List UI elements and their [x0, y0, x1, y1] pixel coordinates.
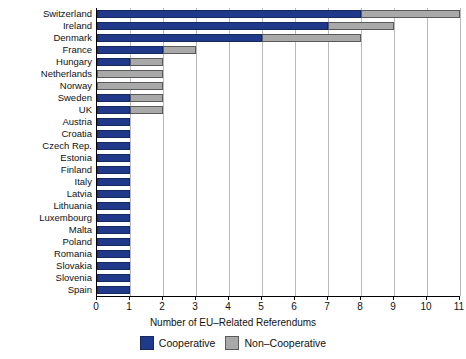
bar-segment-cooperative [97, 94, 130, 102]
x-axis-tick-label-4: 4 [216, 301, 240, 312]
legend-label-non-cooperative: Non–Cooperative [244, 337, 326, 349]
bar-segment-non-cooperative [262, 34, 361, 42]
y-axis-label-croatia: Croatia [61, 129, 92, 139]
bar-row [97, 142, 460, 150]
bar-row [97, 262, 460, 270]
y-axis-label-finland: Finland [61, 165, 92, 175]
x-axis-title: Number of EU–Related Referendums [0, 317, 466, 328]
y-axis-label-latvia: Latvia [67, 189, 92, 199]
bar-segment-cooperative [97, 58, 130, 66]
x-axis-tick-0 [96, 296, 97, 300]
x-axis-tick-10 [426, 296, 427, 300]
legend-swatch-non-cooperative-icon [225, 336, 239, 350]
legend-item-cooperative: Cooperative [140, 336, 216, 350]
y-axis-label-ireland: Ireland [63, 21, 92, 31]
gridline-11 [460, 8, 461, 296]
x-axis-tick-11 [459, 296, 460, 300]
x-axis-tick-label-1: 1 [117, 301, 141, 312]
bar-segment-cooperative [97, 226, 130, 234]
bar-segment-cooperative [97, 106, 130, 114]
y-axis-label-slovakia: Slovakia [56, 261, 92, 271]
bar-segment-cooperative [97, 262, 130, 270]
bar-segment-cooperative [97, 238, 130, 246]
bar-row [97, 226, 460, 234]
plot-area [96, 8, 459, 296]
bar-segment-cooperative [97, 154, 130, 162]
bar-row [97, 238, 460, 246]
bar-row [97, 118, 460, 126]
x-axis-tick-label-6: 6 [282, 301, 306, 312]
bar-segment-non-cooperative [97, 82, 163, 90]
bar-row [97, 274, 460, 282]
bar-row [97, 58, 460, 66]
y-axis-label-luxembourg: Luxembourg [39, 213, 92, 223]
legend-item-non-cooperative: Non–Cooperative [225, 336, 326, 350]
bar-segment-non-cooperative [130, 106, 163, 114]
bar-segment-cooperative [97, 34, 262, 42]
x-axis-tick-7 [327, 296, 328, 300]
x-axis-tick-label-8: 8 [348, 301, 372, 312]
y-axis-label-italy: Italy [75, 177, 92, 187]
x-axis-tick-1 [129, 296, 130, 300]
bar-segment-non-cooperative [130, 58, 163, 66]
y-axis-label-lithuania: Lithuania [53, 201, 92, 211]
x-axis-tick-3 [195, 296, 196, 300]
x-axis-tick-label-3: 3 [183, 301, 207, 312]
y-axis-label-poland: Poland [62, 237, 92, 247]
bar-segment-cooperative [97, 22, 328, 30]
bar-row [97, 106, 460, 114]
bar-row [97, 82, 460, 90]
x-axis-tick-6 [294, 296, 295, 300]
bar-row [97, 34, 460, 42]
bar-row [97, 22, 460, 30]
x-axis-tick-label-11: 11 [447, 301, 466, 312]
y-axis-label-czech-rep: Czech Rep. [42, 141, 92, 151]
bar-segment-non-cooperative [361, 10, 460, 18]
bar-row [97, 250, 460, 258]
y-axis-label-slovenia: Slovenia [56, 273, 92, 283]
bar-segment-cooperative [97, 190, 130, 198]
y-axis-label-norway: Norway [60, 81, 92, 91]
bar-row [97, 202, 460, 210]
legend-swatch-cooperative-icon [140, 336, 154, 350]
y-axis-label-uk: UK [79, 105, 92, 115]
bar-segment-cooperative [97, 166, 130, 174]
x-axis-tick-2 [162, 296, 163, 300]
y-axis-label-estonia: Estonia [60, 153, 92, 163]
y-axis-label-switzerland: Switzerland [43, 9, 92, 19]
x-axis-tick-label-2: 2 [150, 301, 174, 312]
x-axis-tick-label-9: 9 [381, 301, 405, 312]
x-axis-line [96, 296, 459, 297]
bar-row [97, 214, 460, 222]
bar-segment-non-cooperative [163, 46, 196, 54]
bar-segment-non-cooperative [97, 70, 163, 78]
bar-row [97, 10, 460, 18]
bar-row [97, 130, 460, 138]
bar-row [97, 154, 460, 162]
bar-row [97, 166, 460, 174]
x-axis-tick-9 [393, 296, 394, 300]
bar-row [97, 94, 460, 102]
x-axis-tick-label-10: 10 [414, 301, 438, 312]
y-axis-label-malta: Malta [69, 225, 92, 235]
y-axis-label-france: France [62, 45, 92, 55]
bar-segment-cooperative [97, 46, 163, 54]
bar-segment-cooperative [97, 118, 130, 126]
bar-segment-non-cooperative [328, 22, 394, 30]
bar-segment-cooperative [97, 130, 130, 138]
bar-segment-cooperative [97, 142, 130, 150]
bar-segment-non-cooperative [130, 94, 163, 102]
bar-segment-cooperative [97, 286, 130, 294]
bar-segment-cooperative [97, 202, 130, 210]
bar-segment-cooperative [97, 10, 361, 18]
x-axis-tick-4 [228, 296, 229, 300]
bar-segment-cooperative [97, 178, 130, 186]
bar-row [97, 286, 460, 294]
x-axis-tick-8 [360, 296, 361, 300]
y-axis-label-spain: Spain [68, 285, 92, 295]
chart-legend: Cooperative Non–Cooperative [0, 336, 466, 350]
y-axis-label-austria: Austria [62, 117, 92, 127]
x-axis-tick-label-0: 0 [84, 301, 108, 312]
y-axis-label-hungary: Hungary [56, 57, 92, 67]
y-axis-label-netherlands: Netherlands [41, 69, 92, 79]
